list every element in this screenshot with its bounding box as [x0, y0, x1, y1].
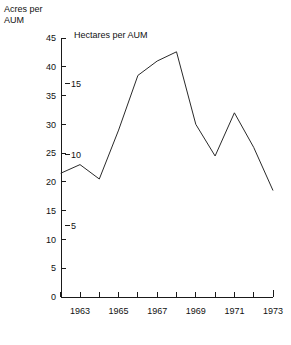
data-series-line — [61, 52, 273, 191]
svg-text:0: 0 — [51, 292, 56, 302]
secondary-y-axis: 51015 — [65, 79, 81, 231]
svg-text:5: 5 — [51, 263, 56, 273]
svg-text:1969: 1969 — [186, 306, 206, 316]
secondary-y-axis-tick-labels: 51015 — [71, 79, 81, 231]
svg-text:25: 25 — [46, 148, 56, 158]
svg-text:5: 5 — [71, 221, 76, 231]
y-axis-ticks — [61, 38, 66, 297]
svg-text:10: 10 — [46, 235, 56, 245]
svg-text:30: 30 — [46, 120, 56, 130]
svg-text:35: 35 — [46, 91, 56, 101]
svg-text:1963: 1963 — [70, 306, 90, 316]
svg-text:40: 40 — [46, 62, 56, 72]
secondary-y-axis-ticks — [65, 84, 70, 226]
svg-text:20: 20 — [46, 177, 56, 187]
svg-text:1971: 1971 — [224, 306, 244, 316]
svg-text:1973: 1973 — [263, 306, 283, 316]
chart-figure: Acres per AUM Hectares per AUM 051015202… — [0, 0, 291, 345]
svg-text:45: 45 — [46, 33, 56, 43]
svg-text:1967: 1967 — [147, 306, 167, 316]
svg-text:1965: 1965 — [109, 306, 129, 316]
svg-text:10: 10 — [71, 150, 81, 160]
x-axis-ticks — [61, 290, 273, 297]
svg-text:15: 15 — [71, 79, 81, 89]
x-axis: 196319651967196919711973 — [61, 290, 283, 316]
line-chart-plot: 051015202530354045 51015 196319651967196… — [0, 0, 291, 345]
y-axis-tick-labels: 051015202530354045 — [46, 33, 56, 302]
y-axis: 051015202530354045 — [46, 33, 66, 302]
x-axis-tick-labels: 196319651967196919711973 — [70, 306, 283, 316]
svg-text:15: 15 — [46, 206, 56, 216]
